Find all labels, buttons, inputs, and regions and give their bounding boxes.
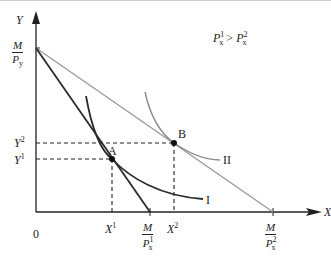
budget-line-1 [36, 48, 150, 212]
x1-label: X1 [105, 222, 116, 235]
curve-2-label: II [223, 154, 231, 166]
indifference-curve-1 [86, 96, 203, 199]
y1-label: Y1 [14, 153, 25, 166]
point-b-label: B [178, 128, 186, 140]
y-axis-arrow-icon [32, 11, 40, 24]
curve-1-label: I [206, 194, 210, 206]
diagram-canvas [0, 0, 331, 257]
origin-label: 0 [33, 228, 39, 240]
m-px2-label: M P2x [265, 222, 276, 252]
x2-label: X2 [167, 222, 178, 235]
x-axis-label: X [324, 206, 331, 218]
point-a-label: A [108, 145, 117, 157]
y-intercept-label: M Py [12, 40, 23, 68]
y2-label: Y2 [14, 136, 25, 149]
y-axis-label: Y [16, 14, 23, 26]
price-condition: P1x > P2x [213, 30, 246, 47]
point-b [171, 140, 177, 146]
m-px1-label: M P1x [142, 222, 153, 252]
